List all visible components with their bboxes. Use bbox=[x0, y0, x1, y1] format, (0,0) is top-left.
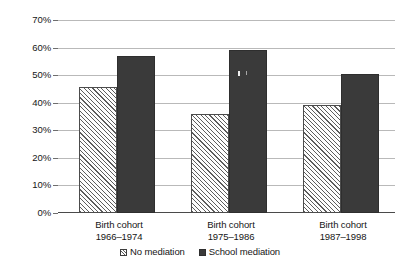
bar-no-mediation-1987-1998 bbox=[303, 105, 341, 213]
y-tick-label-70: 70% bbox=[11, 15, 51, 25]
bar-no-mediation-1975-1986 bbox=[191, 114, 229, 213]
scan-artifact-speck bbox=[238, 71, 240, 76]
y-tick-label-10: 10% bbox=[11, 180, 51, 190]
legend-label-no-mediation: No mediation bbox=[130, 247, 185, 257]
plot-area bbox=[58, 20, 395, 213]
bar-school-mediation-1966-1974 bbox=[117, 56, 155, 213]
y-tick-label-60: 60% bbox=[11, 43, 51, 53]
bar-chart: 70% 60% 50% 40% 30% 20% 10% 0% bbox=[0, 0, 400, 271]
x-axis-group-label-2: Birth cohort 1975–1986 bbox=[171, 219, 291, 242]
y-tick-label-50: 50% bbox=[11, 70, 51, 80]
gridline-70 bbox=[58, 20, 395, 21]
solid-square-icon bbox=[199, 249, 206, 256]
x-axis-group-label-3-line2: 1987–1998 bbox=[283, 231, 400, 243]
x-axis-group-label-1: Birth cohort 1966–1974 bbox=[59, 219, 179, 242]
x-axis-group-label-2-line1: Birth cohort bbox=[207, 219, 254, 230]
y-tick-label-0: 0% bbox=[11, 208, 51, 218]
x-axis-group-label-3-line1: Birth cohort bbox=[319, 219, 366, 230]
bar-school-mediation-1975-1986 bbox=[229, 50, 267, 213]
legend-item-school-mediation: School mediation bbox=[199, 247, 280, 257]
x-axis-group-label-2-line2: 1975–1986 bbox=[171, 231, 291, 243]
y-tick-dash-0 bbox=[53, 213, 58, 214]
chart-legend: No mediation School mediation bbox=[0, 247, 400, 257]
bar-school-mediation-1987-1998 bbox=[341, 74, 379, 213]
scan-artifact-speck-secondary bbox=[246, 71, 247, 75]
x-axis-group-label-1-line2: 1966–1974 bbox=[59, 231, 179, 243]
y-tick-label-20: 20% bbox=[11, 153, 51, 163]
legend-item-no-mediation: No mediation bbox=[120, 247, 185, 257]
legend-label-school-mediation: School mediation bbox=[209, 247, 280, 257]
y-tick-label-30: 30% bbox=[11, 125, 51, 135]
gridline-60 bbox=[58, 48, 395, 49]
y-tick-label-40: 40% bbox=[11, 98, 51, 108]
x-axis-group-label-3: Birth cohort 1987–1998 bbox=[283, 219, 400, 242]
hatched-square-icon bbox=[120, 249, 127, 256]
x-axis-group-label-1-line1: Birth cohort bbox=[95, 219, 142, 230]
bar-no-mediation-1966-1974 bbox=[79, 87, 117, 213]
